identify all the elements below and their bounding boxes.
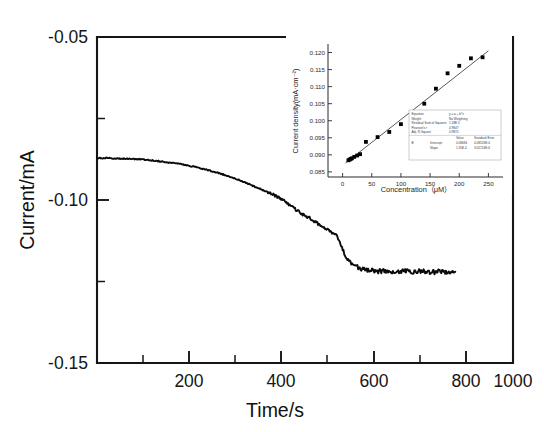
x-tick-label-0: 200	[174, 371, 203, 391]
stats-table-value: 0.08684	[456, 141, 467, 145]
stats-table-param: Intercept	[430, 141, 442, 145]
stats-table-value: 1.35E-4	[456, 146, 467, 150]
x-tick-label-4: 1000	[494, 371, 533, 391]
stats-row-value: y = a + b*x	[449, 112, 464, 116]
figure-container: -0.05 -0.10 -0.15 200 400 600 800 1000 T…	[0, 0, 544, 432]
inset-y-tick-label: 0.085	[310, 168, 326, 175]
stats-header-error: Standard Error	[474, 136, 494, 140]
inset-x-tick-label: 250	[483, 180, 494, 187]
inset-y-tick-label: 0.095	[310, 134, 326, 141]
stats-row-value: No Weighting	[449, 117, 468, 121]
inset-y-axis-title: Current density(mA·cm⁻²)	[291, 69, 300, 154]
stats-row-label: Weight	[412, 117, 422, 121]
inset-chart: 0.0850.0900.0950.1000.1050.1100.1150.120…	[286, 36, 512, 194]
inset-y-tick-label: 0.105	[310, 100, 326, 107]
inset-data-point	[364, 140, 368, 144]
inset-data-point	[446, 71, 450, 75]
inset-y-tick-label: 0.120	[310, 49, 326, 56]
stats-table-error: 4.08526E-4	[474, 141, 490, 145]
x-axis-title: Time/s	[246, 399, 304, 421]
stats-row-value: 0.9847	[449, 126, 459, 130]
inset-data-point	[469, 56, 473, 60]
inset-y-tick-label: 0.115	[310, 66, 326, 73]
inset-y-tick-label: 0.110	[310, 83, 326, 90]
stats-table-param: Slope	[430, 146, 438, 150]
x-tick-label-2: 600	[359, 371, 388, 391]
inset-data-point	[358, 152, 362, 156]
y-tick-label-0: -0.05	[48, 27, 88, 47]
inset-data-point	[387, 130, 391, 134]
inset-data-point	[481, 55, 485, 59]
inset-y-tick-label: 0.100	[310, 117, 326, 124]
inset-x-tick-label: 0	[341, 180, 345, 187]
x-tick-label-3: 800	[451, 371, 480, 391]
y-tick-label-2: -0.15	[48, 353, 88, 373]
stats-row-label: Residual Sum of Squares	[412, 121, 448, 125]
stats-row-label: Adj. R-Square	[412, 130, 432, 134]
stats-table-series: B	[412, 141, 414, 145]
y-axis-title: Current/mA	[16, 150, 38, 250]
inset-data-point	[434, 87, 438, 91]
inset-data-point	[376, 135, 380, 139]
y-tick-label-1: -0.10	[48, 190, 88, 210]
inset-x-tick-label: 200	[454, 180, 465, 187]
inset-x-axis-title: Concentration（μM）	[381, 185, 451, 194]
inset-data-point	[399, 122, 403, 126]
x-tick-label-1: 400	[266, 371, 295, 391]
amperometric-chart: -0.05 -0.10 -0.15 200 400 600 800 1000 T…	[0, 0, 544, 432]
inset-data-point	[457, 64, 461, 68]
stats-row-value: 1.18E-5	[449, 121, 460, 125]
stats-row-label: Pearson's r	[412, 126, 428, 130]
stats-row-label: Equation	[412, 112, 424, 116]
stats-row-value: 0.9870	[449, 130, 459, 134]
inset-data-point	[422, 102, 426, 106]
stats-header-value: Value	[456, 136, 464, 140]
inset-y-tick-label: 0.090	[310, 151, 326, 158]
stats-table-error: 3.05724E-6	[474, 146, 490, 150]
inset-x-tick-label: 50	[368, 180, 375, 187]
inset-stats-box: Equationy = a + b*xWeightNo WeightingRes…	[409, 110, 501, 160]
